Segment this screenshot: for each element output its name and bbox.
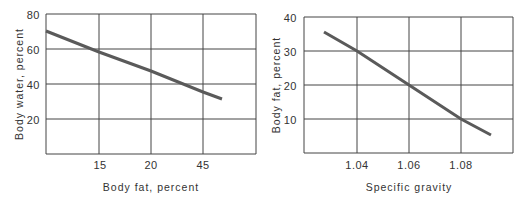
x-tick: 20 — [144, 159, 157, 171]
body-water-plot: 80 60 40 20 15 20 45 Body fat, percent B… — [0, 0, 263, 200]
x-tick: 15 — [93, 159, 106, 171]
y-tick: 40 — [284, 12, 297, 24]
y-tick: 20 — [284, 80, 297, 92]
data-line — [324, 32, 491, 135]
y-axis-label: Body fat, percent — [270, 37, 282, 133]
x-tick: 1.06 — [397, 159, 420, 171]
y-tick: 20 — [27, 114, 40, 126]
y-tick: 80 — [27, 9, 40, 21]
y-tick: 40 — [27, 79, 40, 91]
x-axis-label: Specific gravity — [366, 181, 453, 193]
data-line — [46, 31, 222, 99]
y-tick: 30 — [284, 46, 297, 58]
y-tick: 60 — [27, 44, 40, 56]
x-tick: 1.08 — [449, 159, 472, 171]
grid — [46, 14, 256, 154]
body-fat-plot: 40 30 20 10 1.04 1.06 1.08 Specific grav… — [263, 0, 526, 200]
y-axis-label: Body water, percent — [13, 28, 25, 140]
body-fat-chart: 40 30 20 10 1.04 1.06 1.08 Specific grav… — [263, 0, 526, 200]
x-axis-label: Body fat, percent — [103, 181, 199, 193]
x-tick: 45 — [196, 159, 209, 171]
y-tick: 10 — [284, 114, 297, 126]
x-tick: 1.04 — [345, 159, 368, 171]
body-water-chart: 80 60 40 20 15 20 45 Body fat, percent B… — [0, 0, 263, 200]
